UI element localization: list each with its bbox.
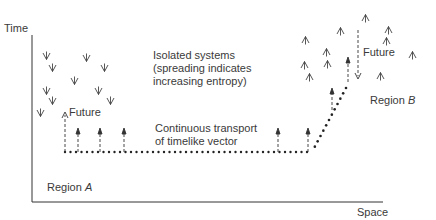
future-label-b: Future bbox=[363, 46, 395, 59]
up-fork-icon bbox=[336, 27, 345, 38]
down-fork-icon bbox=[36, 108, 45, 119]
up-fork-icon bbox=[300, 61, 309, 72]
down-fork-icon bbox=[42, 51, 51, 62]
up-fork-icon bbox=[408, 51, 417, 62]
transport-caption: Continuous transport of timelike vector bbox=[155, 122, 257, 148]
up-fork-icon bbox=[323, 60, 332, 71]
down-fork-icon bbox=[48, 63, 57, 74]
space-axis-label: Space bbox=[357, 206, 388, 219]
region-a-label: Region A bbox=[47, 181, 92, 194]
down-fork-icon bbox=[82, 53, 91, 64]
down-fork-icon bbox=[94, 86, 103, 97]
up-fork-icon bbox=[384, 26, 393, 37]
up-fork-icon bbox=[361, 14, 370, 25]
down-fork-icon bbox=[100, 63, 109, 74]
region-a-letter: A bbox=[85, 181, 92, 193]
down-fork-icon bbox=[48, 96, 57, 107]
isolated-systems-caption: Isolated systems (spreading indicates in… bbox=[153, 49, 251, 88]
down-fork-icon bbox=[106, 96, 115, 107]
up-fork-icon bbox=[322, 48, 331, 59]
up-fork-icon bbox=[376, 72, 385, 83]
future-label-a: Future bbox=[69, 106, 101, 119]
up-fork-icon bbox=[301, 36, 310, 47]
region-a-prefix: Region bbox=[47, 181, 85, 193]
time-axis-label: Time bbox=[4, 22, 28, 35]
region-b-letter: B bbox=[408, 94, 415, 106]
region-b-prefix: Region bbox=[370, 94, 408, 106]
region-b-vectors bbox=[330, 30, 361, 110]
up-fork-icon bbox=[305, 73, 314, 84]
region-b-label: Region B bbox=[370, 94, 415, 107]
down-fork-icon bbox=[70, 76, 79, 87]
